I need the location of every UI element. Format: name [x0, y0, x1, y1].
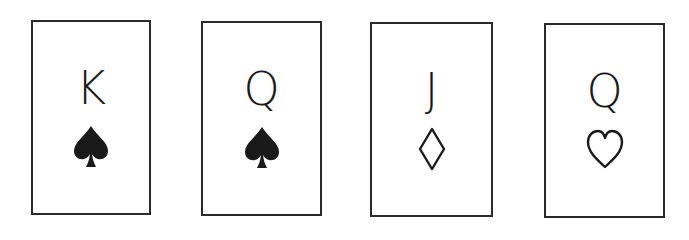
card-rank: J: [372, 67, 491, 113]
card-rank: Q: [546, 68, 663, 114]
card-jack-diamonds: J: [370, 22, 493, 217]
heart-icon: [585, 127, 625, 173]
diamond-icon: [412, 126, 452, 172]
spade-icon: [242, 125, 282, 171]
card-king-spades: K: [31, 20, 151, 215]
card-rank: K: [33, 65, 149, 111]
spade-icon: [71, 124, 111, 170]
card-rank: Q: [203, 66, 320, 112]
card-queen-spades: Q: [201, 21, 322, 216]
card-queen-hearts: Q: [544, 23, 665, 218]
